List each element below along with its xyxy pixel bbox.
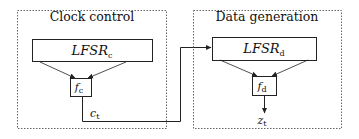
diagram-canvas: Clock control LFSRc fc ct Data generatio…	[0, 0, 359, 139]
lfsr-d-to-fd-arrow-right	[272, 60, 308, 76]
clock-control-title: Clock control	[50, 9, 135, 24]
lfsr-d-to-fd-arrow-left	[220, 60, 257, 76]
zt-label: zt	[256, 114, 267, 128]
data-generation-title: Data generation	[216, 9, 319, 24]
lfsr-c-to-fc-arrow-left	[40, 62, 75, 78]
lfsr-c-to-fc-arrow-right	[88, 62, 126, 78]
lfsr-d-label: LFSRd	[242, 41, 284, 58]
lfsr-c-label: LFSRc	[71, 43, 113, 60]
data-generation-group	[194, 11, 342, 129]
ct-label: ct	[90, 107, 100, 121]
